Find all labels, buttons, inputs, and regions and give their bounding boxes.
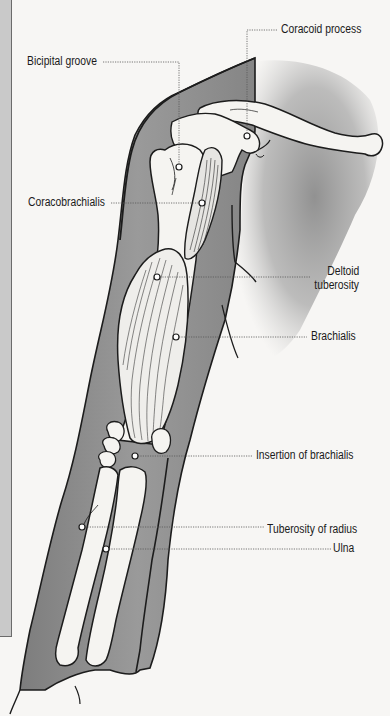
arm-illustration — [0, 0, 390, 716]
marker-deltoid-tuberosity — [154, 274, 160, 280]
label-brachialis: Brachialis — [311, 330, 356, 343]
label-bicipital-groove: Bicipital groove — [27, 55, 97, 68]
label-deltoid-tuberosity-line1: Deltoid — [327, 265, 359, 278]
label-ulna: Ulna — [333, 542, 354, 555]
label-tuberosity-of-radius: Tuberosity of radius — [267, 523, 357, 536]
marker-coracobrachialis — [199, 200, 205, 206]
marker-brachialis — [173, 334, 179, 340]
label-insertion-of-brachialis: Insertion of brachialis — [256, 449, 354, 462]
label-coracoid-process: Coracoid process — [281, 23, 361, 36]
marker-coracoid-process — [244, 133, 250, 139]
marker-insertion-of-brachialis — [132, 453, 138, 459]
marker-bicipital-groove — [176, 164, 182, 170]
marker-ulna — [103, 546, 109, 552]
label-coracobrachialis: Coracobrachialis — [28, 196, 105, 209]
label-deltoid-tuberosity-line2: tuberosity — [314, 279, 359, 292]
marker-tuberosity-of-radius — [79, 524, 85, 530]
